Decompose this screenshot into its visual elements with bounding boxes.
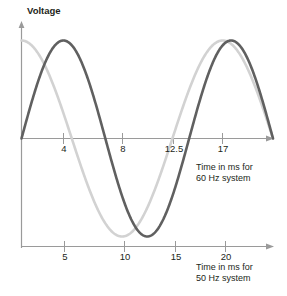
y-axis-arrowhead [19,21,25,28]
chart-plot-area [0,0,287,296]
y-axis-title: Voltage [27,5,61,16]
top-axis-title-line1: Time in ms for [196,162,253,173]
top-axis-title: Time in ms for 60 Hz system [196,162,253,184]
bottom-axis-tick-label-5: 5 [56,252,74,262]
top-axis-tick-label-4: 4 [55,144,73,154]
sine-wave-comparison-chart: Voltage 4 8 12.5 17 Time in ms for 60 Hz… [0,0,287,296]
top-axis-tick-label-8: 8 [114,144,132,154]
bottom-x-axis-50hz [22,241,275,252]
bottom-axis-arrowhead [266,243,274,249]
top-x-axis-60hz [22,133,275,144]
bottom-axis-title-line2: 50 Hz system [196,273,253,284]
bottom-axis-tick-label-10: 10 [114,252,136,262]
bottom-axis-tick-label-20: 20 [215,252,237,262]
bottom-axis-tick-label-15: 15 [165,252,187,262]
top-axis-title-line2: 60 Hz system [196,173,253,184]
bottom-axis-title: Time in ms for 50 Hz system [196,262,253,284]
top-axis-tick-label-12-5: 12.5 [161,144,187,154]
top-axis-tick-label-17: 17 [214,144,232,154]
bottom-axis-title-line1: Time in ms for [196,262,253,273]
